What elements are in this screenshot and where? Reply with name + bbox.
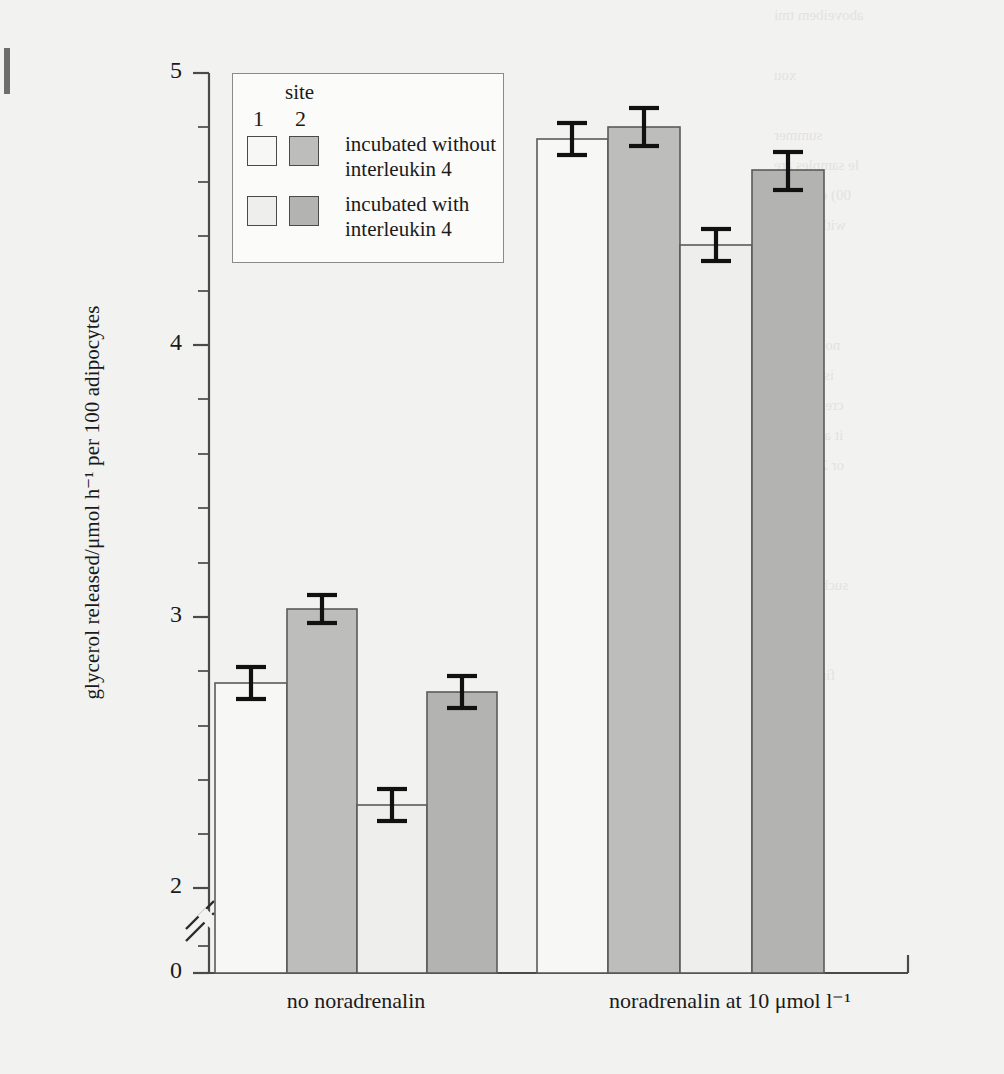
x-category-label-no-noradrenalin: no noradrenalin: [256, 988, 456, 1014]
legend-label-without-interleukin-4: incubated without interleukin 4: [345, 132, 496, 182]
bar-g2-s2-without: [608, 127, 680, 973]
y-tick-label-2: 2: [148, 872, 182, 899]
legend-site-number-1: 1: [253, 106, 264, 132]
y-axis-minor-ticks: [198, 127, 209, 946]
y-tick-label-3: 3: [148, 601, 182, 628]
bar-g2-s1-without: [537, 139, 608, 973]
y-axis-label: glycerol released/μmol h⁻¹ per 100 adipo…: [80, 293, 105, 713]
bar-g1-s1-without: [215, 683, 287, 973]
x-category-label-noradrenalin: noradrenalin at 10 μmol l⁻¹: [580, 988, 880, 1014]
y-axis-major-ticks: [193, 73, 209, 973]
bar-g1-s2-with: [427, 692, 497, 973]
figure-panel: glycerol released/μmol h⁻¹ per 100 adipo…: [0, 0, 1004, 1074]
bar-g2-s2-with: [752, 170, 824, 973]
legend-swatch-site1-without: [247, 136, 277, 166]
bar-g2-s1-with: [680, 245, 752, 973]
legend-title: site: [285, 80, 314, 105]
y-tick-label-4: 4: [148, 329, 182, 356]
bar-g1-s1-with: [357, 805, 427, 973]
bar-group-no-noradrenalin: [215, 609, 497, 973]
y-tick-label-0: 0: [148, 957, 182, 984]
legend-swatch-site2-without: [289, 136, 319, 166]
bar-group-noradrenalin: [537, 127, 824, 973]
legend-site-number-2: 2: [295, 106, 306, 132]
legend-swatch-site1-with: [247, 196, 277, 226]
legend-box: site 1 2 incubated without interleukin 4…: [232, 73, 504, 263]
bar-g1-s2-without: [287, 609, 357, 973]
legend-label-with-interleukin-4: incubated with interleukin 4: [345, 192, 469, 242]
y-tick-label-5: 5: [148, 57, 182, 84]
legend-swatch-site2-with: [289, 196, 319, 226]
